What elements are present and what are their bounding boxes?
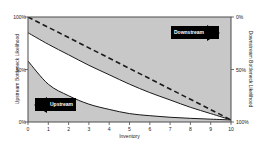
x-tick-label: 3 — [82, 126, 96, 132]
y-tick-label-right: 0% — [236, 14, 260, 20]
x-tick-label: 0 — [21, 126, 35, 132]
x-axis-title: Inventory — [25, 133, 234, 139]
x-tick-label: 4 — [102, 126, 116, 132]
annotation-downstream-label: Downstream — [171, 26, 207, 39]
x-tick-label: 8 — [183, 126, 197, 132]
y-tick-label-left: 50% — [4, 67, 26, 73]
arrow-right-icon — [207, 25, 220, 41]
chart-figure: Upstream Bottleneck Likelihood Downstrea… — [0, 0, 264, 144]
y-tick-label-left: 0% — [4, 119, 26, 125]
y-tick-label-right: 100% — [236, 119, 260, 125]
y-tick-label-right: 50% — [236, 67, 260, 73]
x-tick-label: 1 — [41, 126, 55, 132]
annotation-downstream: Downstream — [171, 26, 219, 39]
y-tick-label-left: 100% — [4, 14, 26, 20]
annotation-upstream: Upstream — [35, 98, 76, 111]
annotation-upstream-label: Upstream — [47, 98, 76, 111]
x-tick-label: 10 — [224, 126, 238, 132]
chart-plot-area — [0, 0, 264, 144]
x-tick-label: 9 — [204, 126, 218, 132]
x-tick-label: 7 — [163, 126, 177, 132]
x-tick-label: 6 — [143, 126, 157, 132]
x-tick-label: 5 — [123, 126, 137, 132]
x-tick-label: 2 — [62, 126, 76, 132]
arrow-left-icon — [34, 97, 47, 113]
